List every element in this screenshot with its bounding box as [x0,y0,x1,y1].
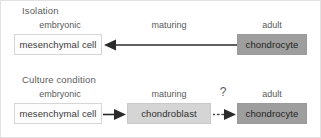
node-label-chondroblast: chondroblast [141,108,197,119]
panel-title-isolation: Isolation [22,5,59,16]
arrow-chondroblast-to-chondrocyte-icon [213,107,237,122]
arrow-chondrocyte-to-mesenchymal-icon [104,37,238,53]
panel-culture-condition: Culture condition embryonic maturing adu… [1,70,321,138]
diagram-figure: Isolation embryonic maturing adult mesen… [0,0,321,138]
stage-label-maturing: maturing [127,20,211,30]
node-mesenchymal-cell: mesenchymal cell [14,34,102,55]
panel-title-culture-condition: Culture condition [22,74,96,85]
stage-label-adult-culture: adult [237,89,307,99]
node-label-chondrocyte: chondrocyte [246,39,299,50]
stage-label-embryonic-culture: embryonic [18,89,102,99]
node-chondrocyte-culture: chondrocyte [237,103,307,124]
panel-isolation: Isolation embryonic maturing adult mesen… [1,1,321,70]
node-chondrocyte: chondrocyte [237,34,307,55]
stage-label-embryonic: embryonic [18,20,102,30]
node-label-chondrocyte-culture: chondrocyte [246,108,299,119]
arrow-mesenchymal-to-chondroblast-icon [103,107,127,122]
node-label-mesenchymal-cell-culture: mesenchymal cell [19,108,96,119]
stage-label-maturing-culture: maturing [127,89,211,99]
uncertainty-question-mark: ? [213,85,233,99]
node-mesenchymal-cell-culture: mesenchymal cell [14,103,102,124]
node-label-mesenchymal-cell: mesenchymal cell [19,39,96,50]
stage-label-adult: adult [237,20,307,30]
node-chondroblast: chondroblast [127,103,211,124]
